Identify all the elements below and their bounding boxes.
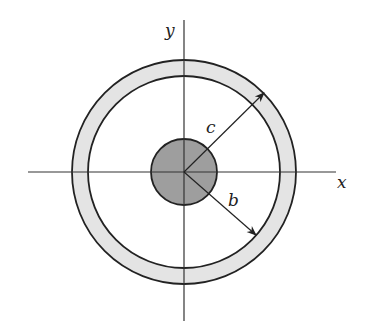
radius-c-label: c — [206, 117, 216, 137]
x-axis-label: x — [337, 172, 347, 192]
y-axis-label: y — [164, 20, 175, 40]
radius-b-label: b — [228, 190, 239, 210]
coax-diagram: y x c b — [0, 0, 365, 333]
